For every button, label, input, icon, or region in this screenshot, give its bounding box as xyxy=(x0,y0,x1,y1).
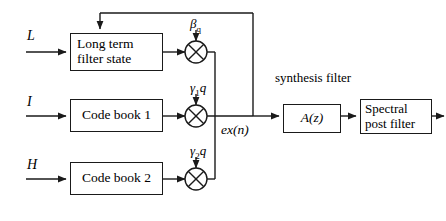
block-synthesis-filter[interactable]: A(z) xyxy=(283,104,341,133)
block-code-book-2[interactable]: Code book 2 xyxy=(70,162,163,195)
block-synthesis-filter-label: A(z) xyxy=(301,111,324,126)
block-code-book-1[interactable]: Code book 1 xyxy=(70,99,163,132)
gain-label-beta-q: βq xyxy=(190,16,201,34)
gain-subscript-beta: q xyxy=(196,24,201,34)
gain-label-gamma-1-q: γ1q xyxy=(190,80,206,98)
block-spectral-post-filter[interactable]: Spectral post filter xyxy=(360,99,432,134)
block-spectral-post-filter-line2: post filter xyxy=(365,117,415,131)
synthesis-caption-line1: synthesis xyxy=(275,70,323,85)
gain-factor-gamma2: q xyxy=(200,143,207,158)
signal-label-excitation: ex(n) xyxy=(221,122,249,138)
gain-label-gamma-2-q: γ2q xyxy=(190,143,206,161)
gain-factor-gamma1: q xyxy=(200,80,207,95)
block-code-book-2-label: Code book 2 xyxy=(82,171,151,186)
input-label-L: L xyxy=(27,28,35,44)
block-long-term-filter-state[interactable]: Long term filter state xyxy=(70,33,163,71)
synthesis-filter-caption: synthesis filter xyxy=(275,71,351,85)
input-label-H: H xyxy=(27,157,37,173)
input-label-I: I xyxy=(27,94,32,110)
synthesis-caption-line2: filter xyxy=(326,70,351,85)
block-spectral-post-filter-line1: Spectral xyxy=(365,102,408,116)
block-long-term-line1: Long term xyxy=(77,37,134,52)
block-code-book-1-label: Code book 1 xyxy=(82,108,151,123)
block-diagram: L I H βq γ1q γ2q ex(n) synthesis filter … xyxy=(0,0,446,221)
block-long-term-line2: filter state xyxy=(77,52,131,67)
